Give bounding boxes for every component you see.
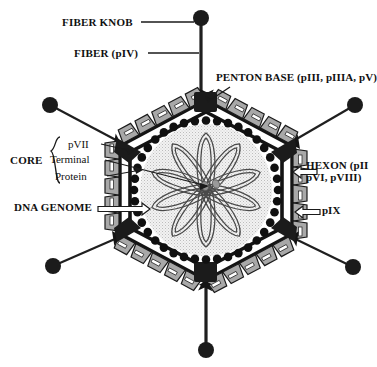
core-protein-dot (202, 255, 211, 264)
core-protein-dot (213, 117, 222, 126)
fiber-knob-bottom (198, 342, 214, 358)
core-protein-dot (169, 249, 178, 258)
core-protein-dot (260, 144, 269, 153)
core-protein-dot (224, 253, 233, 262)
core-protein-dot (138, 218, 147, 227)
core-protein-dot (244, 128, 253, 137)
core-protein-dot (160, 128, 169, 137)
pix-label: pIX (322, 205, 340, 217)
core-protein-dot (224, 119, 233, 128)
core-protein-dot (169, 123, 178, 132)
fiber-knob-upper-left (42, 97, 58, 113)
fiber-knob-lower-left (45, 258, 61, 274)
penton-base-label: PENTON BASE (pIII, pIIIA, pV) (216, 72, 377, 84)
core-protein-dot (202, 116, 211, 125)
core-label: CORE (10, 155, 43, 167)
core-protein-dot (266, 218, 275, 227)
core-protein-dot (180, 119, 189, 128)
penton-base-top (194, 92, 217, 112)
core-protein-dot (130, 186, 139, 195)
hexon-edge-left (105, 141, 119, 231)
core-protein-dot (244, 243, 253, 252)
core-protein-dot (252, 135, 261, 144)
core-protein-dot (151, 135, 160, 144)
core-protein-dot (180, 253, 189, 262)
fiber-knob-lower-right (345, 259, 361, 275)
hexon-capsomer (293, 185, 307, 203)
core-protein-dot (270, 164, 279, 173)
core-protein-dot (234, 249, 243, 258)
core-protein-dot (273, 197, 282, 206)
fiber-piv-label: FIBER (pIV) (74, 48, 138, 60)
fiber-knob-label: FIBER KNOB (62, 17, 133, 29)
viral-core (130, 116, 283, 264)
core-protein-dot (252, 236, 261, 245)
core-protein-dot (274, 186, 283, 195)
core-item-terminal: Terminal (50, 154, 90, 166)
core-protein-dot (191, 117, 200, 126)
core-protein-dot (234, 123, 243, 132)
core-protein-dot (260, 228, 269, 237)
dna-genome-label: DNA GENOME (14, 202, 92, 214)
core-protein-dot (213, 255, 222, 264)
core-protein-dot (191, 255, 200, 264)
core-protein-dot (273, 175, 282, 184)
core-item-protein: Protein (55, 171, 87, 183)
core-protein-dot (144, 228, 153, 237)
core-protein-dot (138, 153, 147, 162)
hexon-label-line2: pVI, pVIII) (306, 172, 368, 184)
core-protein-dot (160, 243, 169, 252)
core-protein-dot (131, 197, 140, 206)
core-protein-dot (131, 175, 140, 184)
hexon-capsomer (105, 177, 119, 195)
hexon-edge-right (293, 149, 307, 239)
fiber-knob-upper-right (347, 97, 363, 113)
core-item-pvii: pVII (68, 139, 89, 151)
core-protein-dot (270, 208, 279, 217)
core-protein-dot (151, 236, 160, 245)
penton-base-bottom (194, 262, 217, 282)
core-protein-dot (144, 144, 153, 153)
hexon-label: HEXON (pII pVI, pVIII) (306, 160, 368, 184)
core-protein-dot (266, 153, 275, 162)
fiber-knob-top (193, 10, 209, 26)
